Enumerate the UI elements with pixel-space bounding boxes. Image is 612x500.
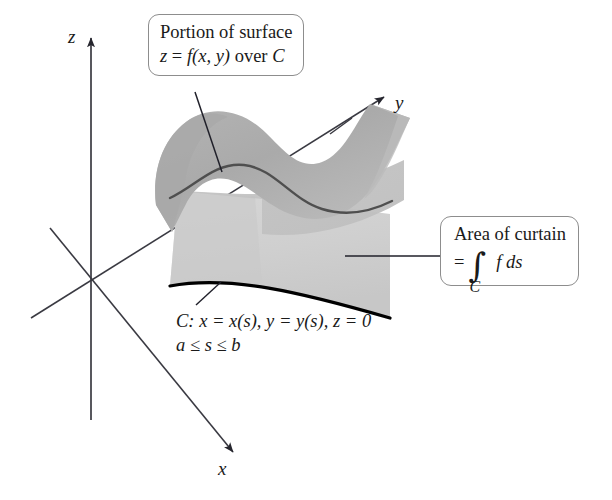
curve-caption-line1: C: x = x(s), y = y(s), z = 0 [176,309,371,333]
callout-surface-line1: Portion of surface [160,21,293,45]
callout-portion-of-surface: Portion of surface z = f(x, y) over C [148,14,304,76]
curve-caption-line2: a ≤ s ≤ b [176,333,371,357]
curve-parametrization-caption: C: x = x(s), y = y(s), z = 0 a ≤ s ≤ b [176,309,371,357]
callout-surface-line2: z = f(x, y) over C [160,45,293,69]
surface-eq-args: (x, y) [192,46,230,66]
y-axis-label: y [395,92,403,114]
callout-curtain-line1: Area of curtain [454,223,566,247]
integral-sign: ∫C [468,252,486,279]
x-axis-label: x [218,458,226,480]
surface-eq-equals: = [167,46,187,66]
curtain-integral-expression: = ∫C f ds [454,250,522,277]
leader-curve-caption [196,282,221,305]
z-axis-label: z [68,26,75,48]
integral-subscript-c: C [469,281,480,294]
line-integral-curtain-figure: z y x Portion of surface z = f(x, y) ove… [0,0,612,500]
callout-area-of-curtain: Area of curtain = ∫C f ds [440,216,579,286]
integrand-f-ds: f ds [496,251,522,275]
surface-eq-over: over [230,46,272,66]
leader-y-axis-to-surface [330,118,352,134]
integral-equals-sign: = [454,251,464,275]
surface-eq-curve: C [272,46,284,66]
